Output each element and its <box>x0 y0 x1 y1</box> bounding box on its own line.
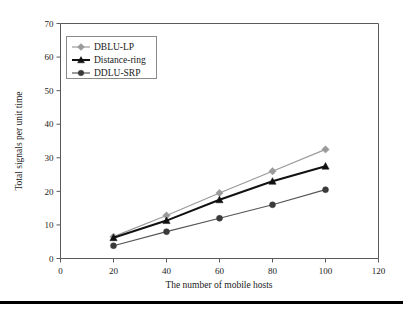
legend-label: DDLU-SRP <box>94 68 140 78</box>
series-dblu-lp <box>110 146 329 241</box>
x-axis-title: The number of mobile hosts <box>165 280 272 290</box>
y-axis-ticks: 010203040506070 <box>45 19 61 264</box>
figure-container: 010203040506070 020406080100120 DBLU-LPD… <box>0 0 403 314</box>
chart-legend: DBLU-LPDistance-ringDDLU-SRP <box>67 37 157 79</box>
x-tick-label: 80 <box>268 266 278 276</box>
y-tick-label: 60 <box>45 52 55 62</box>
data-point <box>323 187 329 193</box>
data-point <box>216 189 223 196</box>
x-axis-ticks: 020406080100120 <box>58 259 386 276</box>
legend-label: DBLU-LP <box>94 42 134 52</box>
y-tick-label: 70 <box>45 19 55 29</box>
y-tick-label: 40 <box>45 119 55 129</box>
series-distance-ring <box>110 163 329 241</box>
data-point <box>270 202 276 208</box>
y-tick-label: 20 <box>45 187 55 197</box>
y-tick-label: 0 <box>49 254 54 264</box>
x-tick-label: 20 <box>109 266 119 276</box>
page-divider-rule <box>0 301 403 304</box>
data-point <box>217 215 223 221</box>
x-tick-label: 40 <box>162 266 172 276</box>
data-point <box>164 229 170 235</box>
legend-swatch-marker <box>78 70 84 76</box>
data-point <box>111 243 117 249</box>
line-chart: 010203040506070 020406080100120 DBLU-LPD… <box>0 0 403 314</box>
data-point <box>322 146 329 153</box>
y-tick-label: 10 <box>45 220 55 230</box>
x-tick-label: 60 <box>215 266 225 276</box>
series-layer <box>110 146 329 249</box>
x-tick-label: 0 <box>58 266 63 276</box>
y-tick-label: 30 <box>45 153 55 163</box>
data-point <box>269 168 276 175</box>
y-tick-label: 50 <box>45 86 55 96</box>
x-tick-label: 120 <box>372 266 386 276</box>
y-axis-title: Total signals per unit time <box>14 91 24 190</box>
legend-label: Distance-ring <box>94 55 146 65</box>
x-tick-label: 100 <box>319 266 333 276</box>
